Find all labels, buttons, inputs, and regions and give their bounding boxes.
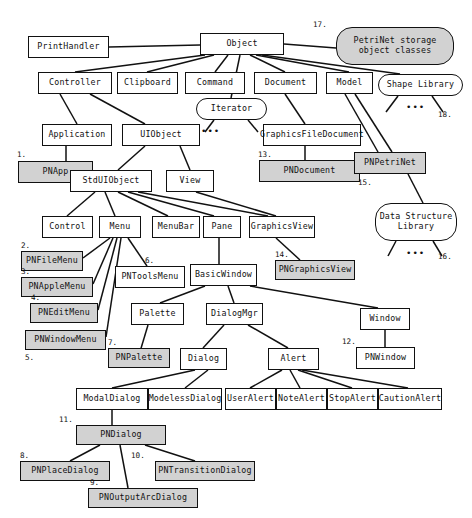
class-node-CautionAlert[interactable]: CautionAlert [378,388,442,410]
class-node-PNEditMenu[interactable]: PNEditMenu [30,303,98,323]
class-node-ModelessDialog[interactable]: ModelessDialog [148,388,222,410]
edge-PNDialog-to-PNPlaceDialog [70,445,100,461]
class-node-UIObject[interactable]: UIObject [122,124,200,146]
edge-Controller-to-Application [60,94,77,124]
class-node-ModalDialog[interactable]: ModalDialog [76,388,148,410]
class-node-StdUIObject[interactable]: StdUIObject [70,170,152,192]
class-node-DataStructureLibrary[interactable]: Data Structure Library [375,203,457,241]
class-node-Clipboard[interactable]: Clipboard [117,72,178,94]
class-node-PNPetriNet[interactable]: PNPetriNet [354,152,426,174]
edge-BasicWindow-to-Palette [160,286,205,303]
class-node-Palette[interactable]: Palette [131,303,184,325]
edge-Alert-to-StopAlert [298,370,352,388]
node-number-label: 10. [131,451,145,460]
ellipsis-marker: ••• [201,126,220,136]
edge-Dialog-to-ModelessDialog [185,370,208,388]
edge-View-to-GraphicsView [196,192,276,216]
node-number-label: 2. [21,241,30,250]
node-number-label: 6. [145,256,154,265]
node-number-label: 15. [358,178,372,187]
node-number-label: 8. [20,451,29,460]
edge-Document-to-GraphicsFileDocument [285,94,305,124]
node-number-label: 14. [275,250,289,259]
class-node-PNWindow[interactable]: PNWindow [356,347,415,369]
class-node-Controller[interactable]: Controller [38,72,112,94]
node-number-label: 7. [108,338,117,347]
class-node-PNDocument[interactable]: PNDocument [259,160,360,182]
class-node-GraphicsFileDocument[interactable]: GraphicsFileDocument [263,124,361,146]
class-node-PNGraphicsView[interactable]: PNGraphicsView [275,260,355,280]
edge-UIObject-to-StdUIObject [118,146,145,170]
class-node-Pane[interactable]: Pane [203,216,241,238]
class-node-Object[interactable]: Object [200,33,284,55]
class-node-Iterator[interactable]: Iterator [196,98,267,120]
edge-Object-to-Model [256,55,349,72]
edge-Alert-to-NoteAlert [290,370,300,388]
edge-Object-to-PrintHandler [109,45,200,47]
class-node-View[interactable]: View [166,170,214,192]
edge-PNDialog-to-PNOutputArcDialog [120,445,128,488]
node-number-label: 5. [25,353,34,362]
edge-Alert-to-CautionAlert [302,370,408,388]
class-node-Document[interactable]: Document [254,72,317,94]
edge-UIObject-to-View [180,146,190,170]
node-number-label: 3. [21,267,30,276]
edge-DataStructureLibrary-to-dots5 [388,241,396,256]
node-number-label: 11. [59,415,73,424]
class-node-PNTransitionDialog[interactable]: PNTransitionDialog [155,461,255,481]
class-node-MenuBar[interactable]: MenuBar [152,216,200,238]
class-node-PNFileMenu[interactable]: PNFileMenu [21,251,83,271]
edge-Alert-to-UserAlert [250,370,282,388]
edge-DialogMgr-to-Alert [248,325,288,348]
class-node-NoteAlert[interactable]: NoteAlert [276,388,327,410]
class-node-PNDialog[interactable]: PNDialog [76,425,166,445]
node-number-label: 18. [438,110,452,119]
class-node-UserAlert[interactable]: UserAlert [225,388,276,410]
class-node-Menu[interactable]: Menu [99,216,141,238]
ellipsis-marker: ••• [406,248,425,258]
class-node-Control[interactable]: Control [42,216,93,238]
node-number-label: 13. [258,150,272,159]
class-node-ShapeLibrary[interactable]: Shape Library [378,74,463,96]
class-node-PNStorage[interactable]: PetriNet storage object classes [336,27,454,65]
class-node-PrintHandler[interactable]: PrintHandler [28,36,109,58]
edge-Controller-to-UIObject [90,94,145,124]
class-hierarchy-diagram: PrintHandlerObjectPetriNet storage objec… [0,0,472,518]
node-number-label: 17. [313,20,327,29]
class-node-PNPalette[interactable]: PNPalette [108,348,170,368]
class-node-Window[interactable]: Window [360,308,410,330]
edge-Object-to-PNStorage [284,44,336,48]
edge-Iterator-to-dots4 [248,120,258,132]
edge-StdUIObject-to-Menu [105,192,115,216]
class-node-PNWindowMenu[interactable]: PNWindowMenu [25,330,106,350]
class-node-Dialog[interactable]: Dialog [180,348,227,370]
edge-StdUIObject-to-Control [67,192,95,216]
class-node-PNToolsMenu[interactable]: PNToolsMenu [115,266,185,288]
edge-Object-to-Command [215,55,228,72]
class-node-BasicWindow[interactable]: BasicWindow [190,264,257,286]
edge-ShapeLibrary-to-dots1 [386,96,398,112]
edge-Menu-to-PNAppleMenu [93,238,113,284]
edge-BasicWindow-to-Window [250,286,378,308]
node-number-label: 4. [31,293,40,302]
class-node-DialogMgr[interactable]: DialogMgr [206,303,263,325]
edge-PNPetriNet-to-DataStructureLibrary [408,174,423,203]
class-node-Alert[interactable]: Alert [268,348,319,370]
node-number-label: 1. [17,150,26,159]
class-node-Model[interactable]: Model [326,72,373,94]
ellipsis-marker: ••• [406,102,425,112]
edge-PNDialog-to-PNTransitionDialog [145,445,195,461]
node-number-label: 12. [342,337,356,346]
edge-BasicWindow-to-DialogMgr [228,286,234,303]
class-node-PNOutputArcDialog[interactable]: PNOutputArcDialog [88,488,198,508]
class-node-StopAlert[interactable]: StopAlert [327,388,378,410]
node-number-label: 9. [90,478,99,487]
class-node-GraphicsView[interactable]: GraphicsView [249,216,315,238]
class-node-Command[interactable]: Command [185,72,245,94]
node-number-label: 16. [438,252,452,261]
class-node-Application[interactable]: Application [42,124,112,146]
edge-DialogMgr-to-Dialog [203,325,224,348]
edge-Dialog-to-ModalDialog [112,370,195,388]
